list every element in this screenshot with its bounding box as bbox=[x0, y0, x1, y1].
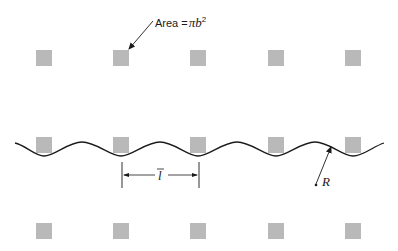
spacing-dimension: l bbox=[122, 162, 199, 188]
area-leader-arrow bbox=[129, 21, 153, 49]
square-obstacle bbox=[36, 223, 52, 239]
square-obstacle bbox=[190, 137, 206, 153]
square-obstacle bbox=[345, 137, 361, 153]
spacing-label: l bbox=[158, 168, 162, 183]
square-obstacle bbox=[268, 223, 284, 239]
area-label: Area =πb2 bbox=[155, 15, 207, 30]
square-obstacle bbox=[190, 50, 206, 66]
square-obstacle bbox=[268, 137, 284, 153]
square-obstacle bbox=[36, 50, 52, 66]
square-obstacle bbox=[345, 223, 361, 239]
square-obstacle bbox=[113, 137, 129, 153]
radius-annotation: R bbox=[315, 147, 331, 189]
radius-label: R bbox=[321, 174, 330, 189]
square-row-bottom bbox=[36, 223, 361, 239]
square-row-top bbox=[36, 50, 361, 66]
square-obstacle bbox=[113, 50, 129, 66]
square-row-middle bbox=[36, 137, 361, 153]
lattice-diagram: Area =πb2 l R bbox=[0, 0, 398, 251]
square-obstacle bbox=[113, 223, 129, 239]
square-obstacle bbox=[190, 223, 206, 239]
area-annotation: Area =πb2 bbox=[129, 15, 207, 49]
square-obstacle bbox=[345, 50, 361, 66]
square-obstacle bbox=[268, 50, 284, 66]
square-obstacle bbox=[36, 137, 52, 153]
